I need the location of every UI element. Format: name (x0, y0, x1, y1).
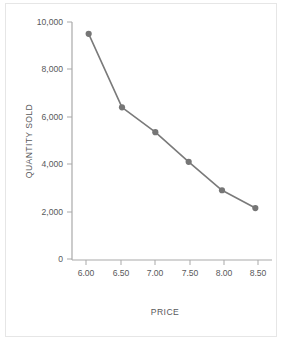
x-tick-label-2: 6.50 (113, 268, 130, 278)
data-markers (86, 31, 259, 211)
chart-figure: 0 2,000 4,000 6,000 8,000 10,000 6.00 6.… (0, 0, 282, 343)
x-tick-label-5: 8.00 (216, 268, 233, 278)
data-point (119, 104, 125, 110)
x-tick-label-4: 7.50 (182, 268, 199, 278)
data-point (252, 205, 258, 211)
line-chart: 0 2,000 4,000 6,000 8,000 10,000 6.00 6.… (0, 0, 282, 343)
y-tick-label-0: 0 (58, 254, 63, 264)
x-tick-label-1: 6.00 (78, 268, 95, 278)
data-line (89, 34, 256, 208)
x-axis-title: PRICE (151, 307, 179, 317)
x-tick-label-6: 8.50 (250, 268, 267, 278)
y-axis-title: QUANTITY SOLD (24, 104, 34, 178)
y-tick-label-10000: 10,000 (37, 17, 64, 27)
x-tick-label-3: 7.00 (147, 268, 164, 278)
data-point (86, 31, 92, 37)
y-axis-ticks (67, 22, 72, 259)
data-point (186, 159, 192, 165)
data-point (152, 129, 158, 135)
y-tick-label-6000: 6,000 (41, 112, 63, 122)
data-point (219, 187, 225, 193)
x-axis-ticks (86, 260, 258, 265)
y-tick-label-4000: 4,000 (41, 159, 63, 169)
y-tick-label-8000: 8,000 (41, 64, 63, 74)
y-tick-label-2000: 2,000 (41, 207, 63, 217)
